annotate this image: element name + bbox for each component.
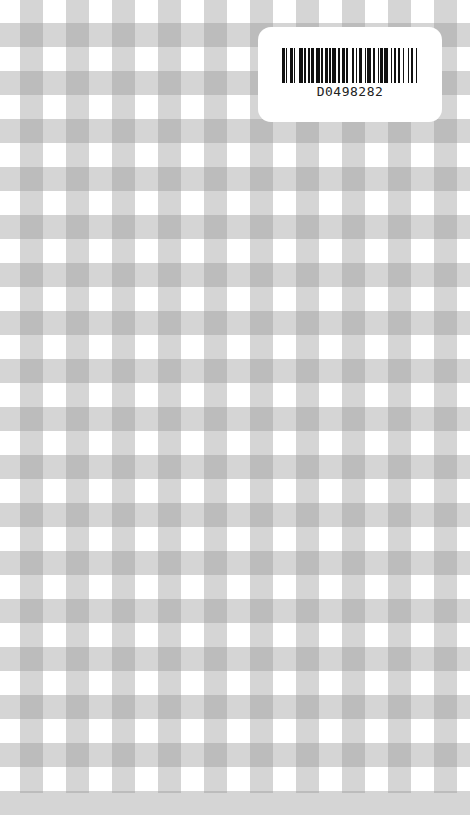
horizontal-stripe — [0, 263, 470, 287]
barcode-icon — [282, 48, 420, 83]
horizontal-stripe — [0, 359, 470, 383]
horizontal-stripe — [0, 599, 470, 623]
horizontal-stripe — [0, 647, 470, 671]
horizontal-stripe — [0, 119, 470, 143]
horizontal-stripe — [0, 311, 470, 335]
horizontal-stripe — [0, 407, 470, 431]
horizontal-stripe — [0, 167, 470, 191]
horizontal-stripe — [0, 695, 470, 719]
horizontal-stripe — [0, 215, 470, 239]
horizontal-stripe — [0, 791, 470, 815]
horizontal-stripe — [0, 455, 470, 479]
horizontal-stripe — [0, 743, 470, 767]
barcode-label: D0498282 — [258, 27, 442, 122]
barcode-number: D0498282 — [258, 84, 442, 99]
horizontal-stripe — [0, 503, 470, 527]
horizontal-stripe — [0, 551, 470, 575]
